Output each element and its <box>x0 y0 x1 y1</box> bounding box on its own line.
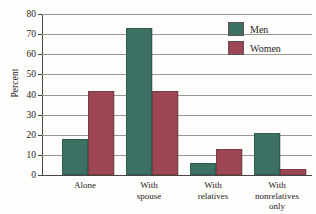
y-tick-label: 70 <box>27 29 37 39</box>
x-category-label-line: nonrelatives <box>234 191 316 202</box>
bar-group <box>54 14 116 175</box>
y-tick-mark <box>38 135 42 136</box>
bar-men <box>190 163 216 175</box>
y-tick-label: 10 <box>27 150 37 160</box>
y-tick-label: 80 <box>27 9 37 19</box>
y-tick-label: 60 <box>27 49 37 59</box>
y-tick-label: 0 <box>31 170 36 180</box>
legend-item: Women <box>228 41 281 55</box>
y-tick-mark <box>38 14 42 15</box>
y-tick-label: 40 <box>27 90 37 100</box>
bar-women <box>216 149 242 175</box>
bar-women <box>280 169 306 175</box>
bar-men <box>126 28 152 175</box>
y-tick-mark <box>38 155 42 156</box>
y-tick-label: 20 <box>27 130 37 140</box>
y-tick-mark <box>38 54 42 55</box>
legend-swatch-icon <box>228 41 244 55</box>
y-tick-label: 50 <box>27 69 37 79</box>
bar-group <box>118 14 180 175</box>
y-tick-mark <box>38 74 42 75</box>
bar-women <box>88 91 114 176</box>
y-tick-mark <box>38 34 42 35</box>
x-axis-line <box>42 175 312 176</box>
y-tick-mark <box>38 95 42 96</box>
y-tick-mark <box>38 175 42 176</box>
bar-men <box>62 139 88 175</box>
y-tick-mark <box>38 115 42 116</box>
x-category-label-line: With <box>234 180 316 191</box>
x-category-label: Withnonrelativesonly <box>234 180 316 212</box>
bar-women <box>152 91 178 176</box>
legend-item: Men <box>228 22 281 36</box>
bar-chart-figure: Percent 80706050403020100 AloneWithspous… <box>0 0 316 214</box>
bar-men <box>254 133 280 175</box>
chart-legend: MenWomen <box>228 22 281 55</box>
x-category-label-line: only <box>234 201 316 212</box>
legend-swatch-icon <box>228 22 244 36</box>
y-tick-label: 30 <box>27 110 37 120</box>
y-axis-title: Percent <box>10 48 20 118</box>
legend-label: Men <box>250 24 268 35</box>
legend-label: Women <box>250 43 281 54</box>
